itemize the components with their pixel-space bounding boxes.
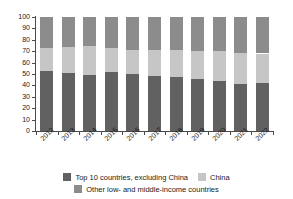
bar-2020[interactable] [213,17,226,131]
y-axis-tick-label: 10 [22,115,30,124]
bar-segment [40,17,53,48]
bar-2018[interactable] [170,17,183,131]
legend-label-china: China [210,173,230,182]
x-axis-tick-mark [251,132,252,135]
bar-segment [170,77,183,131]
legend-row-primary: Top 10 countries, excluding China China [0,171,293,183]
bar-segment [83,17,96,46]
plot-area [36,17,273,131]
x-axis-tick-mark [101,132,102,135]
bar-segment [62,17,75,47]
bar-segment [148,76,161,131]
bar-segment [148,50,161,76]
legend-label-other: Other low- and middle-income countries [86,185,219,194]
bar-2022[interactable] [256,17,269,131]
x-axis-tick-mark [187,132,188,135]
bar-segment [105,48,118,73]
bar-segment [83,75,96,131]
bar-segment [256,83,269,131]
x-axis-tick-mark [208,132,209,135]
bar-segment [234,17,247,53]
bar-segment [126,74,139,131]
bar-2012[interactable] [40,17,53,131]
bar-segment [170,50,183,77]
bar-2015[interactable] [105,17,118,131]
bar-segment [234,53,247,84]
legend-label-top10: Top 10 countries, excluding China [75,173,188,182]
x-axis-tick-mark [36,132,37,135]
y-axis-tick-label: 30 [22,92,30,101]
bar-segment [62,73,75,131]
x-axis-tick-mark [230,132,231,135]
x-axis-tick-mark [58,132,59,135]
y-axis-tick-label: 40 [22,80,30,89]
bar-segment [40,71,53,131]
y-axis-tick-label: 80 [22,35,30,44]
x-axis-tick-mark [144,132,145,135]
y-axis-tick-label: 0 [26,126,30,135]
bar-segment [256,54,269,84]
legend-swatch-other-icon [74,185,82,193]
bar-segment [191,79,204,131]
legend-item-other[interactable]: Other low- and middle-income countries [74,185,219,194]
y-axis-tick-label: 100 [18,12,30,21]
bar-segment [213,17,226,51]
bar-segment [191,51,204,79]
bar-segment [148,17,161,50]
x-axis-tick-mark [79,132,80,135]
legend-swatch-china-icon [198,173,206,181]
y-axis-tick-label: 60 [22,58,30,67]
x-axis-tick-mark [165,132,166,135]
x-axis-tick-mark [273,132,274,135]
y-axis-tick-label: 90 [22,23,30,32]
bar-segment [83,46,96,75]
bar-segment [105,72,118,131]
y-axis-tick-label: 70 [22,46,30,55]
bar-2013[interactable] [62,17,75,131]
stacked-bar-chart: 0102030405060708090100 20122013201420152… [0,0,293,199]
bar-segment [170,17,183,50]
bar-2014[interactable] [83,17,96,131]
bar-2019[interactable] [191,17,204,131]
legend-item-top10[interactable]: Top 10 countries, excluding China [63,173,188,182]
bar-2021[interactable] [234,17,247,131]
bar-segment [126,50,139,74]
bar-segment [213,51,226,81]
bar-segment [256,17,269,53]
bar-segment [126,17,139,50]
y-axis-tick-label: 50 [22,69,30,78]
bar-segment [105,17,118,48]
bar-segment [40,48,53,71]
x-axis-tick-mark [122,132,123,135]
bar-segment [234,84,247,131]
bar-2016[interactable] [126,17,139,131]
chart-legend: Top 10 countries, excluding China China … [0,171,293,195]
legend-swatch-top10-icon [63,173,71,181]
bar-segment [191,17,204,51]
bar-2017[interactable] [148,17,161,131]
bar-segment [62,47,75,73]
y-axis-tick-label: 20 [22,103,30,112]
legend-row-secondary: Other low- and middle-income countries [0,183,293,195]
legend-item-china[interactable]: China [198,173,230,182]
bar-segment [213,81,226,131]
